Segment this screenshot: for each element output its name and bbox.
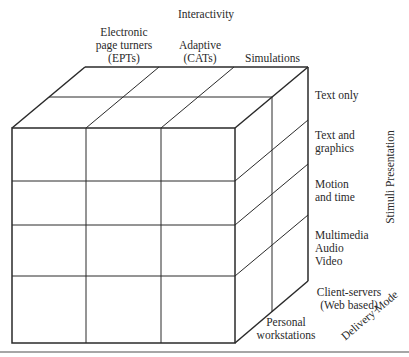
interactivity-level-ept: Electronic page turners (EPTs) (84, 26, 164, 65)
stimuli-level-text-only: Text only (315, 89, 359, 102)
interactivity-level-simulations: Simulations (245, 52, 300, 65)
stimuli-level-multimedia: Multimedia Audio Video (315, 229, 369, 268)
interactivity-level-cat: Adaptive (CATs) (170, 39, 230, 65)
stimuli-axis-title: Stimuli Presentation (384, 122, 398, 232)
interactivity-axis-title: Interactivity (166, 8, 246, 21)
delivery-level-personal-workstations: Personal workstations (246, 316, 326, 342)
stimuli-level-motion-time: Motion and time (315, 178, 355, 204)
stimuli-level-text-graphics: Text and graphics (315, 129, 355, 155)
front-face (12, 128, 235, 343)
